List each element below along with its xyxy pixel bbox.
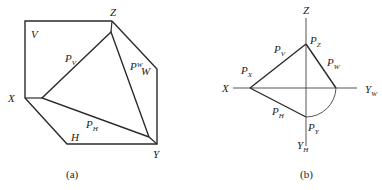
label-pz: PZ bbox=[309, 34, 321, 49]
label-py: PY bbox=[307, 121, 320, 136]
label-h: H bbox=[70, 131, 80, 143]
label-z-axis: Z bbox=[303, 4, 310, 16]
y-axis-stub bbox=[149, 137, 157, 144]
label-pw: PW bbox=[326, 56, 341, 71]
label-ph: PH bbox=[271, 105, 285, 120]
label-yw-axis: YW bbox=[365, 83, 378, 98]
transfer-arc bbox=[306, 88, 336, 117]
figure-a: V Z X Y H W PV PW PH (a) bbox=[7, 6, 161, 181]
caption-b: (b) bbox=[300, 168, 313, 181]
label-x: X bbox=[7, 92, 16, 104]
label-v: V bbox=[31, 28, 39, 40]
label-yh-axis: YH bbox=[297, 139, 309, 154]
caption-a: (a) bbox=[66, 168, 79, 181]
label-z: Z bbox=[110, 6, 117, 18]
label-px: PX bbox=[240, 64, 253, 79]
diagram-canvas: V Z X Y H W PV PW PH (a) Z X YW YH PZ PV… bbox=[0, 0, 382, 190]
label-ph: PH bbox=[85, 118, 99, 133]
projection-diagram: V Z X Y H W PV PW PH (a) Z X YW YH PZ PV… bbox=[0, 0, 382, 190]
label-x-axis: X bbox=[221, 82, 230, 94]
label-y: Y bbox=[153, 148, 161, 160]
z-axis-stub bbox=[111, 21, 112, 32]
label-pv: PV bbox=[64, 52, 77, 67]
label-pv: PV bbox=[273, 43, 286, 58]
figure-b: Z X YW YH PZ PV PX PW PH PY (b) bbox=[221, 4, 378, 181]
plane-p-triangle bbox=[42, 32, 149, 137]
